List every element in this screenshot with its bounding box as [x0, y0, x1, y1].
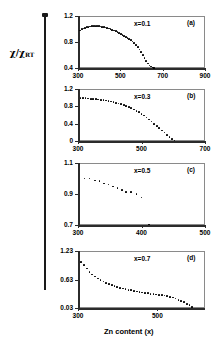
y-tick-label: 0.03	[42, 304, 73, 311]
x-tick-label: 500	[143, 312, 171, 319]
y-axis-line	[78, 163, 80, 225]
y-tick-mark	[75, 89, 78, 90]
x-tick-label: 300	[64, 72, 92, 79]
y-tick-mark	[75, 280, 78, 281]
x-tick-mark	[205, 68, 206, 71]
data-point	[105, 282, 107, 284]
x-tick-label: 700	[191, 145, 219, 152]
x-axis-line	[78, 68, 205, 70]
data-point	[119, 287, 121, 289]
y-axis-line	[78, 16, 80, 68]
y-tick-label: 0.7	[42, 221, 73, 228]
x-tick-mark	[78, 141, 79, 144]
data-point	[142, 54, 144, 56]
chart-panel-a: 3005007009000.40.81.2x=0.1(a)	[78, 16, 205, 68]
data-point	[108, 283, 110, 285]
data-point	[191, 306, 193, 308]
data-point	[137, 46, 139, 48]
data-point	[136, 110, 138, 112]
data-point	[153, 123, 155, 125]
data-point	[138, 111, 140, 113]
chart-panel-d: 3005000.030.631.23x=0.7(d)	[78, 251, 205, 308]
data-point	[180, 300, 182, 302]
data-point	[161, 130, 163, 132]
x-tick-label: 300	[64, 229, 92, 236]
data-point	[128, 289, 130, 291]
y-tick-mark	[75, 124, 78, 125]
data-point	[166, 295, 168, 297]
data-point	[156, 125, 158, 127]
data-point	[92, 98, 94, 100]
series-label: x=0.3	[134, 93, 150, 100]
y-tick-mark	[75, 225, 78, 226]
data-point	[125, 191, 127, 193]
data-point	[171, 138, 173, 140]
data-point	[136, 193, 138, 195]
x-tick-mark	[142, 141, 143, 144]
data-point	[169, 136, 171, 138]
x-tick-mark	[78, 225, 79, 228]
data-point	[80, 261, 82, 263]
data-point	[153, 67, 155, 69]
x-tick-mark	[205, 141, 206, 144]
data-point	[130, 191, 132, 193]
y-tick-mark	[75, 163, 78, 164]
panel-tag: (d)	[187, 254, 195, 261]
x-tick-label: 900	[191, 72, 219, 79]
data-point	[103, 99, 105, 101]
global-y-axis-label-subscript: RT	[25, 51, 34, 58]
x-tick-label: 500	[106, 72, 134, 79]
x-tick-mark	[78, 68, 79, 71]
x-tick-label: 400	[128, 229, 156, 236]
data-point	[183, 301, 185, 303]
data-point	[90, 98, 92, 100]
x-tick-mark	[120, 68, 121, 71]
data-point	[128, 106, 130, 108]
data-point	[121, 189, 123, 191]
y-axis-line	[78, 251, 80, 308]
y-tick-mark	[75, 194, 78, 195]
y-tick-label: 0.4	[42, 64, 73, 71]
data-point	[136, 291, 138, 293]
data-point	[117, 187, 119, 189]
x-tick-mark	[163, 68, 164, 71]
data-point	[115, 102, 117, 104]
y-tick-mark	[75, 68, 78, 69]
y-tick-mark	[75, 308, 78, 309]
series-label: x=0.7	[134, 255, 150, 262]
y-tick-mark	[75, 16, 78, 17]
data-point	[125, 105, 127, 107]
data-point	[144, 292, 146, 294]
y-tick-mark	[75, 251, 78, 252]
y-tick-label: 0.9	[42, 190, 73, 197]
data-point	[145, 60, 147, 62]
data-point	[186, 303, 188, 305]
data-point	[95, 98, 97, 100]
panel-tag: (a)	[187, 19, 195, 26]
data-point	[133, 290, 135, 292]
x-tick-label: 300	[64, 145, 92, 152]
data-point	[147, 292, 149, 294]
chart-panel-b: 30050070000.40.81.2x=0.3(b)	[78, 89, 205, 141]
x-tick-label: 500	[128, 145, 156, 152]
figure-root: χ/χRT Zn content (x) 3005007009000.40.81…	[0, 0, 223, 341]
x-tick-mark	[142, 225, 143, 228]
y-tick-label: 1.2	[42, 12, 73, 19]
data-point	[166, 134, 168, 136]
panel-tag: (c)	[187, 166, 195, 173]
data-point	[82, 97, 84, 99]
global-y-axis-label: χ/χRT	[2, 48, 42, 59]
global-y-axis-label-main: χ/χ	[10, 48, 25, 58]
data-point	[123, 104, 125, 106]
data-point	[100, 99, 102, 101]
chart-panel-c: 3004005000.70.91.1x=0.5(c)	[78, 163, 205, 225]
y-tick-mark	[75, 141, 78, 142]
y-tick-label: 0.8	[42, 38, 73, 45]
x-tick-mark	[157, 308, 158, 311]
series-label: x=0.5	[134, 167, 150, 174]
x-tick-label: 300	[64, 312, 92, 319]
data-point	[158, 294, 160, 296]
x-tick-mark	[78, 308, 79, 311]
data-point	[169, 296, 171, 298]
y-tick-label: 0.63	[42, 276, 73, 283]
